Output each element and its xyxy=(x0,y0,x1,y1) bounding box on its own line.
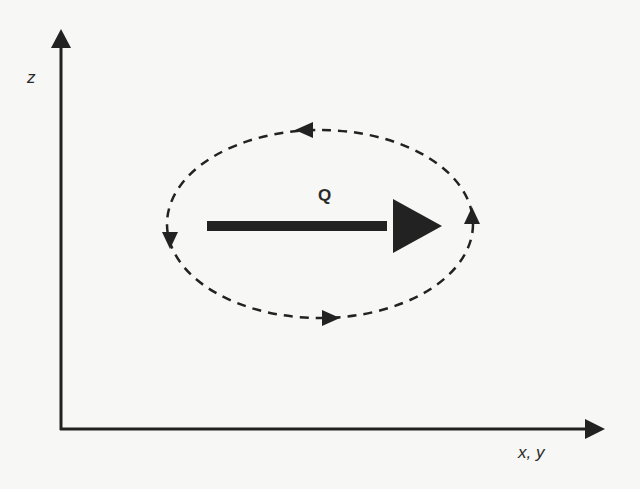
circulation-arrow-right-icon xyxy=(464,207,480,224)
circulation-arrow-top-icon xyxy=(295,122,313,138)
circulation-arrow-bottom-icon xyxy=(322,310,340,326)
z-axis-label: z xyxy=(27,68,36,88)
xy-axis xyxy=(60,419,605,439)
diagram-canvas xyxy=(0,0,640,489)
flow-arrow xyxy=(207,199,442,253)
flow-arrowhead-icon xyxy=(393,199,442,253)
flow-label: Q xyxy=(318,186,331,206)
xy-axis-label: x, y xyxy=(518,443,544,463)
circulation-arrow-left-icon xyxy=(162,232,178,249)
z-axis xyxy=(51,29,71,430)
z-axis-arrowhead-icon xyxy=(51,29,71,48)
xy-axis-arrowhead-icon xyxy=(585,419,605,439)
